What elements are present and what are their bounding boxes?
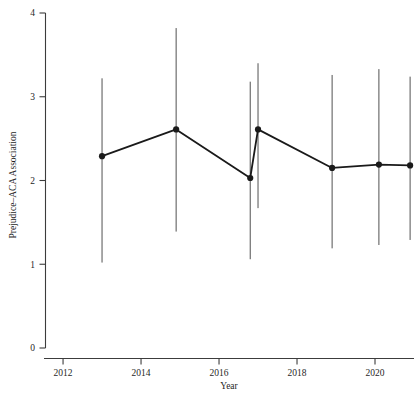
chart-figure: 01234 20122014201620182020 Year Prejudic… xyxy=(0,0,419,395)
trend-line xyxy=(102,129,410,178)
data-point xyxy=(376,161,382,167)
y-tick-label: 4 xyxy=(30,8,35,18)
x-tick-label: 2014 xyxy=(132,368,151,378)
x-tick-label: 2012 xyxy=(54,368,73,378)
y-tick-label: 1 xyxy=(30,260,35,270)
x-axis-title: Year xyxy=(220,381,238,391)
scatter-plot-with-error-bars: 01234 20122014201620182020 Year Prejudic… xyxy=(0,0,419,395)
data-point xyxy=(329,165,335,171)
y-axis-title: Prejudice–ACA Association xyxy=(8,131,18,238)
x-axis-ticks: 20122014201620182020 xyxy=(54,359,385,379)
data-point-group xyxy=(99,126,413,181)
y-axis-ticks: 01234 xyxy=(30,8,45,353)
data-point xyxy=(173,126,179,132)
x-tick-label: 2020 xyxy=(366,368,385,378)
data-point xyxy=(99,153,105,159)
y-tick-label: 0 xyxy=(30,343,35,353)
data-point xyxy=(255,126,261,132)
data-point xyxy=(407,162,413,168)
x-tick-label: 2016 xyxy=(210,368,229,378)
y-tick-label: 3 xyxy=(30,92,35,102)
x-tick-label: 2018 xyxy=(288,368,307,378)
y-tick-label: 2 xyxy=(30,176,35,186)
data-point xyxy=(247,175,253,181)
